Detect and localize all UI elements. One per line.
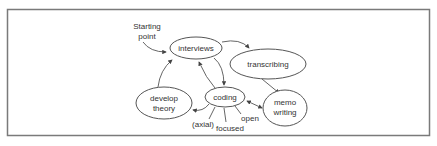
coding-type-focused: focused — [216, 124, 244, 133]
coding-type-open: open — [241, 114, 259, 123]
starting-point-label-line1: Starting — [133, 22, 161, 31]
coding-type-axial: (axial) — [192, 120, 214, 129]
node-develop-theory-label-line1: develop — [150, 94, 179, 103]
node-interviews: interviews — [170, 37, 222, 59]
node-memo-writing-label-line1: memo — [274, 98, 297, 107]
node-transcribing: transcribing — [230, 49, 306, 79]
starting-point-label-line2: point — [138, 32, 156, 41]
node-coding-label: coding — [213, 93, 237, 102]
node-memo-writing-label-line2: writing — [272, 108, 296, 117]
node-memo-writing: memo writing — [263, 90, 307, 126]
node-coding: coding — [205, 87, 245, 107]
node-transcribing-label: transcribing — [247, 60, 288, 69]
node-interviews-label: interviews — [178, 44, 214, 53]
node-develop-theory-label-line2: theory — [153, 104, 175, 113]
node-develop-theory: develop theory — [136, 87, 192, 119]
grounded-theory-diagram: Starting point interviews transcribing d… — [0, 0, 437, 146]
diagram-frame — [8, 10, 430, 136]
